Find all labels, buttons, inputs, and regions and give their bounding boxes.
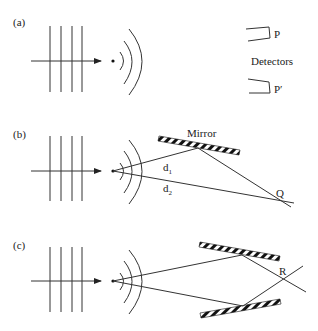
detector-p-icon xyxy=(246,27,270,41)
detectors-title: Detectors xyxy=(251,55,293,67)
interference-diagram: (a) P Detectors P′ (b) xyxy=(0,0,318,331)
detectors: P Detectors P′ xyxy=(246,27,293,95)
circular-wavefronts xyxy=(120,250,142,314)
point-q-label: Q xyxy=(276,187,284,199)
panel-b-label: (b) xyxy=(13,128,26,141)
panel-a-label: (a) xyxy=(13,16,26,29)
mirror-label: Mirror xyxy=(187,127,217,139)
detector-p-prime-icon xyxy=(248,79,270,93)
detector-p-prime-label: P′ xyxy=(274,83,283,95)
panel-a: (a) xyxy=(13,16,142,95)
top-mirror xyxy=(199,242,280,261)
ray-to-bottom-mirror xyxy=(113,281,243,306)
ray-d2 xyxy=(113,171,294,203)
reflected-ray-top xyxy=(242,255,306,292)
plane-wavefronts xyxy=(50,136,82,201)
point-r-label: R xyxy=(279,265,287,277)
circular-wavefronts xyxy=(120,140,142,204)
d2-label: d2 xyxy=(163,182,173,197)
panel-b: (b) Mirror d1 d2 Q xyxy=(13,127,294,207)
detector-p-label: P xyxy=(274,28,280,40)
circular-wavefronts xyxy=(120,29,142,95)
plane-wavefronts xyxy=(50,26,82,92)
slit-source-dot xyxy=(111,59,114,62)
bottom-mirror xyxy=(200,299,281,318)
ray-to-top-mirror xyxy=(113,255,242,281)
panel-c: (c) R xyxy=(13,239,306,318)
plane-wavefronts xyxy=(50,247,82,312)
d1-label: d1 xyxy=(163,161,173,176)
ray-d1 xyxy=(113,148,198,171)
panel-c-label: (c) xyxy=(13,239,26,252)
